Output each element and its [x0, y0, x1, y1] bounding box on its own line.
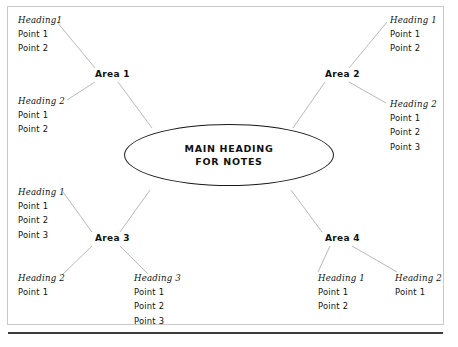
- branch-area-1-heading-2: Heading 2 Point 1 Point 2: [18, 94, 65, 137]
- branch-area-2-heading-1: Heading 1 Point 1 Point 2: [390, 13, 437, 56]
- branch-point: Point 2: [134, 299, 181, 313]
- branch-point: Point 3: [18, 228, 65, 242]
- center-heading-line-1: MAIN HEADING: [185, 142, 274, 155]
- branch-point: Point 1: [134, 285, 181, 299]
- branch-point: Point 1: [390, 27, 437, 41]
- branch-heading: Heading 1: [390, 13, 437, 27]
- branch-point: Point 1: [390, 111, 437, 125]
- branch-area-3-heading-2: Heading 2 Point 1: [18, 271, 65, 299]
- branch-area-3-heading-1: Heading 1 Point 1 Point 2 Point 3: [18, 185, 65, 242]
- branch-point: Point 3: [134, 314, 181, 328]
- branch-heading: Heading 2: [18, 271, 65, 285]
- branch-heading: Heading 2: [18, 94, 65, 108]
- center-heading-line-2: FOR NOTES: [195, 155, 262, 168]
- branch-point: Point 1: [18, 27, 62, 41]
- figure-page: MAIN HEADING FOR NOTES Area 1 Area 2 Are…: [0, 0, 458, 347]
- branch-area-4-heading-2: Heading 2 Point 1: [395, 271, 442, 299]
- branch-point: Point 1: [18, 108, 65, 122]
- area-label-area-3: Area 3: [95, 233, 130, 243]
- area-label-area-1: Area 1: [95, 69, 130, 79]
- branch-point: Point 2: [18, 41, 62, 55]
- branch-point: Point 2: [390, 125, 437, 139]
- branch-point: Point 2: [18, 213, 65, 227]
- center-node: MAIN HEADING FOR NOTES: [124, 124, 334, 186]
- area-label-area-2: Area 2: [325, 69, 360, 79]
- branch-point: Point 2: [390, 41, 437, 55]
- branch-point: Point 2: [318, 299, 365, 313]
- branch-point: Point 1: [18, 285, 65, 299]
- branch-heading: Heading 2: [390, 97, 437, 111]
- bottom-rule: [8, 332, 443, 334]
- branch-area-2-heading-2: Heading 2 Point 1 Point 2 Point 3: [390, 97, 437, 154]
- area-label-area-4: Area 4: [325, 233, 360, 243]
- branch-point: Point 3: [390, 140, 437, 154]
- branch-area-3-heading-3: Heading 3 Point 1 Point 2 Point 3: [134, 271, 181, 328]
- branch-heading: Heading1: [18, 13, 62, 27]
- branch-heading: Heading 1: [18, 185, 65, 199]
- branch-point: Point 1: [318, 285, 365, 299]
- branch-heading: Heading 1: [318, 271, 365, 285]
- branch-heading: Heading 3: [134, 271, 181, 285]
- branch-point: Point 1: [18, 199, 65, 213]
- branch-area-4-heading-1: Heading 1 Point 1 Point 2: [318, 271, 365, 314]
- branch-point: Point 2: [18, 122, 65, 136]
- branch-heading: Heading 2: [395, 271, 442, 285]
- branch-area-1-heading-1: Heading1 Point 1 Point 2: [18, 13, 62, 56]
- branch-point: Point 1: [395, 285, 442, 299]
